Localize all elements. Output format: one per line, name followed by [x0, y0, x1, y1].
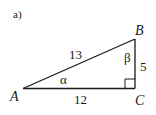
side-bc-length: 5: [140, 59, 147, 74]
angle-beta-label: β: [124, 50, 131, 65]
side-ab-length: 13: [69, 47, 82, 62]
right-triangle-diagram: a) A B C 13 12 5 α β: [0, 0, 156, 115]
vertex-c-label: C: [135, 93, 145, 108]
angle-alpha-label: α: [60, 72, 67, 87]
figure-label: a): [13, 8, 22, 21]
side-ac-length: 12: [74, 92, 87, 107]
right-angle-marker: [125, 79, 135, 89]
vertex-a-label: A: [9, 89, 19, 104]
vertex-b-label: B: [135, 23, 144, 38]
